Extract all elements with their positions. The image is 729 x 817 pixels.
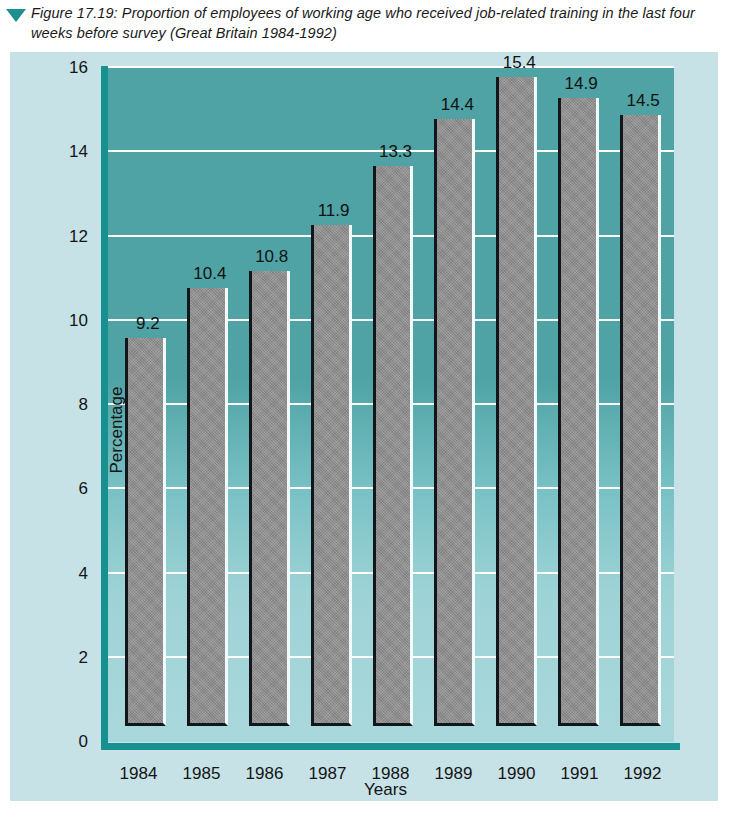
bar-slot: 14.9	[550, 68, 612, 726]
y-tick-label: 12	[69, 226, 88, 246]
triangle-down-icon	[6, 9, 26, 22]
y-tick-label: 0	[79, 732, 88, 752]
y-tick-label: 6	[79, 479, 88, 499]
bar-slot: 13.3	[365, 68, 427, 726]
y-tick-label: 2	[79, 647, 88, 667]
bar[interactable]	[558, 98, 599, 726]
bar[interactable]	[187, 288, 228, 726]
plot-background: 9.210.410.811.913.314.415.414.914.5	[107, 68, 674, 742]
bar-series: 9.210.410.811.913.314.415.414.914.5	[117, 68, 674, 726]
y-tick-label: 4	[79, 563, 88, 583]
x-axis-line	[101, 743, 680, 750]
bar-slot: 10.8	[241, 68, 303, 726]
bar-slot: 10.4	[179, 68, 241, 726]
y-tick-label: 10	[69, 310, 88, 330]
x-axis-label: Years	[97, 780, 674, 800]
caption-text: Figure 17.19: Proportion of employees of…	[31, 3, 711, 43]
bar[interactable]	[496, 77, 537, 726]
bar-slot: 14.4	[426, 68, 488, 726]
bar-value-label: 14.5	[600, 91, 686, 111]
y-tick-label: 8	[79, 395, 88, 415]
figure-panel: 9.210.410.811.913.314.415.414.914.5 0246…	[10, 52, 718, 801]
figure-caption: Figure 17.19: Proportion of employees of…	[0, 0, 729, 52]
bar[interactable]	[620, 115, 661, 726]
chart-plot-area: 9.210.410.811.913.314.415.414.914.5 0246…	[97, 68, 674, 758]
y-tick-label: 14	[69, 142, 88, 162]
bar[interactable]	[373, 166, 414, 726]
bar-slot: 15.4	[488, 68, 550, 726]
bar[interactable]	[125, 338, 166, 726]
bar[interactable]	[434, 119, 475, 726]
bar[interactable]	[249, 271, 290, 726]
bar[interactable]	[311, 225, 352, 726]
bar-slot: 14.5	[612, 68, 674, 726]
y-tick-label: 16	[69, 58, 88, 78]
y-axis-label: Percentage	[107, 350, 127, 510]
bar-slot: 11.9	[303, 68, 365, 726]
